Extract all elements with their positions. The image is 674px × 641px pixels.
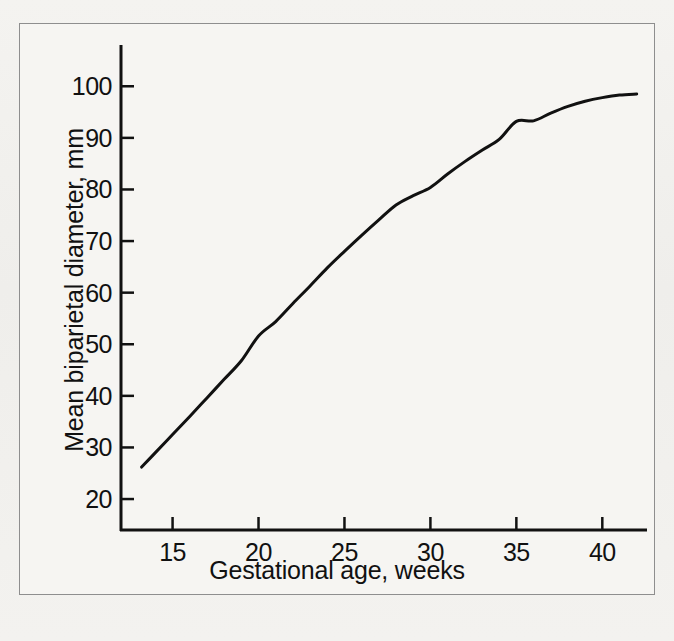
x-axis-title: Gestational age, weeks (0, 556, 674, 585)
x-axis-ticks (173, 517, 603, 530)
y-axis-title: Mean biparietal diameter, mm (60, 90, 89, 490)
data-series-line (142, 94, 637, 467)
axis-lines (120, 45, 647, 531)
figure-page: 2030405060708090100 152025303540 Gestati… (0, 0, 674, 641)
y-axis-ticks (121, 86, 134, 499)
